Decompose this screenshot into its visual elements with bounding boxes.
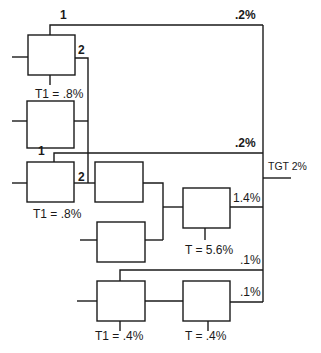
second-path-line	[54, 153, 263, 162]
second-path-pct-label: .2%	[235, 136, 256, 150]
box-c	[27, 162, 74, 202]
box-b	[27, 101, 74, 148]
box-h-tolerance-label: T = .4%	[185, 329, 227, 343]
box-g	[97, 281, 145, 321]
box-h	[183, 281, 230, 321]
top-path-input-label: 1	[60, 8, 67, 22]
box-d-output-line	[143, 183, 163, 240]
top-path-line	[50, 25, 263, 35]
block-diagram: 1 .2% 2 T1 = .8% 1 .2% TGT 2% 2 T1 = .8%…	[0, 0, 321, 353]
box-a	[28, 35, 75, 75]
lower-path-line	[120, 270, 263, 281]
target-label: TGT 2%	[268, 160, 307, 172]
box-a-output-label: 2	[78, 43, 85, 57]
second-path-input-label: 1	[38, 144, 45, 158]
box-h-output-label: .1%	[240, 285, 261, 299]
top-path-pct-label: .2%	[235, 8, 256, 22]
box-f	[183, 188, 230, 228]
lower-path-pct-label: .1%	[240, 253, 261, 267]
box-c-tolerance-label: T1 = .8%	[33, 207, 82, 221]
box-g-tolerance-label: T1 = .4%	[95, 329, 144, 343]
box-a-tolerance-label: T1 = .8%	[35, 87, 84, 101]
box-f-tolerance-label: T = 5.6%	[185, 243, 233, 257]
box-c-output-label: 2	[78, 170, 85, 184]
box-f-output-label: 1.4%	[233, 191, 261, 205]
box-e	[97, 222, 145, 262]
box-d	[95, 162, 143, 202]
